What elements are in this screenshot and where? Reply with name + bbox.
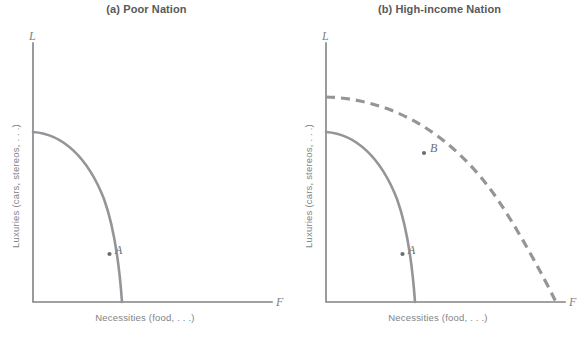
panel-b-point-a-dot	[400, 252, 404, 256]
panel-a-plot: L F A Necessities (food, . . .) Luxuries…	[0, 0, 293, 339]
panel-b-x-axis-caption: Necessities (food, . . .)	[388, 312, 488, 323]
panel-b-y-axis-caption: Luxuries (cars, stereos, . . .)	[303, 124, 314, 248]
panel-a-point-a-dot	[107, 252, 111, 256]
panel-a-x-axis-caption: Necessities (food, . . .)	[95, 312, 195, 323]
panel-b-ppf-curve-high-income	[326, 97, 556, 302]
figure-production-possibility-frontiers: (a) Poor Nation L F A Necessities (food,…	[0, 0, 587, 339]
panel-b-x-axis-tip: F	[568, 295, 577, 309]
panel-poor-nation: (a) Poor Nation L F A Necessities (food,…	[0, 0, 293, 339]
panel-a-point-a-label: A	[114, 243, 123, 257]
panel-b-y-axis-tip: L	[321, 29, 329, 43]
panel-a-axes	[33, 43, 272, 302]
panel-b-ppf-curve-poor	[326, 132, 415, 302]
panel-b-point-b-dot	[422, 151, 426, 155]
panel-b-point-a-label: A	[407, 243, 416, 257]
panel-a-y-axis-tip: L	[28, 29, 36, 43]
panel-a-x-axis-tip: F	[275, 295, 284, 309]
panel-high-income-nation: (b) High-income Nation L F A B Necessiti…	[293, 0, 586, 339]
panel-b-axes	[326, 43, 565, 302]
panel-a-ppf-curve	[33, 132, 122, 302]
panel-a-y-axis-caption: Luxuries (cars, stereos, . . .)	[10, 124, 21, 248]
panel-b-plot: L F A B Necessities (food, . . .) Luxuri…	[293, 0, 586, 339]
panel-b-point-b-label: B	[430, 141, 438, 155]
